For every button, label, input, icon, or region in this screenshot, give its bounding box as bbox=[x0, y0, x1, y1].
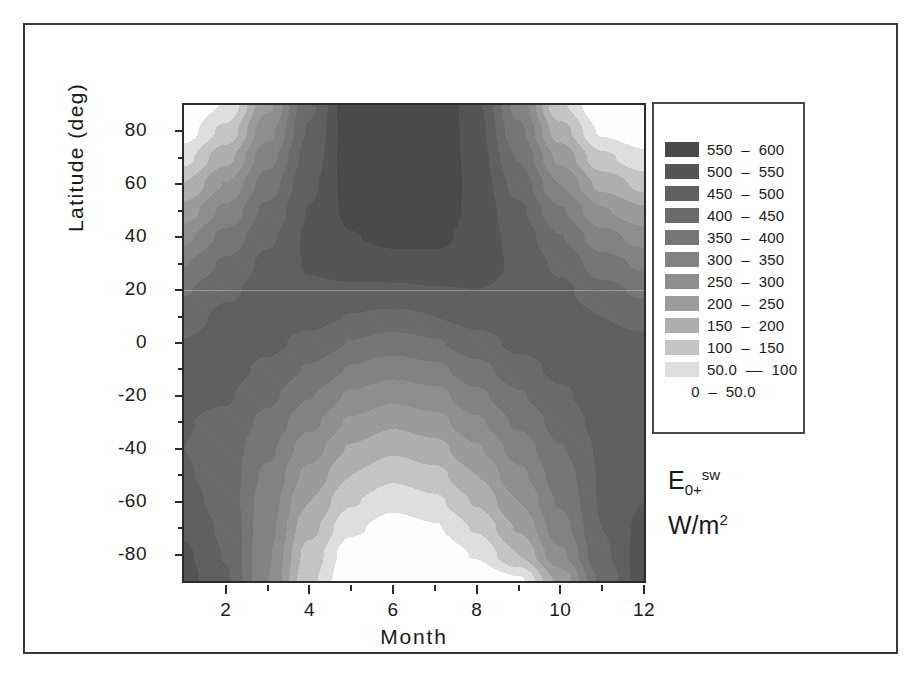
legend-entry: 100 – 150 bbox=[665, 336, 798, 358]
legend-entry: 200 – 250 bbox=[665, 292, 798, 314]
y-axis-tick-minor bbox=[178, 263, 184, 265]
legend-entry: 300 – 350 bbox=[665, 248, 798, 270]
quantity-symbol-superscript: sw bbox=[702, 466, 720, 483]
legend-entry-label: 550 – 600 bbox=[707, 141, 784, 158]
x-axis-tick-major bbox=[225, 585, 227, 594]
x-axis-tick-minor bbox=[350, 585, 352, 591]
y-axis-tick-label: -40 bbox=[118, 437, 147, 459]
legend-color-swatch bbox=[665, 296, 699, 311]
legend-entry: 450 – 500 bbox=[665, 182, 798, 204]
x-axis-tick-major bbox=[392, 585, 394, 594]
legend-entry: 500 – 550 bbox=[665, 160, 798, 182]
quantity-symbol-subscript: 0+ bbox=[685, 481, 702, 498]
y-axis-tick-label: 40 bbox=[125, 225, 147, 247]
legend-color-swatch bbox=[665, 362, 699, 377]
y-axis-tick-label: -60 bbox=[118, 490, 147, 512]
x-axis-tick-major bbox=[308, 585, 310, 594]
legend-color-swatch bbox=[665, 274, 699, 289]
y-axis-tick-label: 80 bbox=[125, 119, 147, 141]
y-axis-tick-minor bbox=[178, 157, 184, 159]
x-axis-title: Month bbox=[182, 625, 646, 649]
x-axis-tick-label: 12 bbox=[614, 599, 674, 621]
legend-entry-label: 350 – 400 bbox=[707, 229, 784, 246]
x-axis-tick-major bbox=[643, 585, 645, 594]
y-axis-tick-minor bbox=[178, 368, 184, 370]
legend-color-swatch bbox=[665, 142, 699, 157]
y-axis-tick-minor bbox=[178, 316, 184, 318]
y-axis-tick-label: -20 bbox=[118, 384, 147, 406]
y-axis-tick-major bbox=[175, 130, 184, 132]
x-axis-tick-minor bbox=[518, 585, 520, 591]
legend-entry-list: 550 – 600500 – 550450 – 500400 – 450350 … bbox=[665, 138, 798, 402]
x-axis-tick-minor bbox=[434, 585, 436, 591]
y-axis-tick-minor bbox=[178, 210, 184, 212]
legend-entry: 250 – 300 bbox=[665, 270, 798, 292]
quantity-annotation: E0+sw W/m2 bbox=[668, 462, 728, 543]
legend-entry-label: 200 – 250 bbox=[707, 295, 784, 312]
y-axis-tick-major bbox=[175, 236, 184, 238]
y-axis-title: Latitude (deg) bbox=[64, 83, 88, 232]
legend-entry-label: 50.0 –– 100 bbox=[707, 361, 797, 378]
y-axis-tick-minor bbox=[178, 421, 184, 423]
legend-entry: 550 – 600 bbox=[665, 138, 798, 160]
y-axis-tick-label: 0 bbox=[136, 331, 147, 353]
y-axis-tick-label: 60 bbox=[125, 172, 147, 194]
legend-color-swatch bbox=[665, 164, 699, 179]
legend-entry-label: 100 – 150 bbox=[707, 339, 784, 356]
x-axis-tick-label: 10 bbox=[530, 599, 590, 621]
plot-area: 806040200-20-40-60-8024681012 bbox=[182, 103, 646, 583]
legend-color-swatch bbox=[665, 230, 699, 245]
legend-entry: 350 – 400 bbox=[665, 226, 798, 248]
x-axis-tick-label: 6 bbox=[363, 599, 423, 621]
legend-entry-label: 150 – 200 bbox=[707, 317, 784, 334]
legend-entry: 50.0 –– 100 bbox=[665, 358, 798, 380]
legend-entry-label: 500 – 550 bbox=[707, 163, 784, 180]
legend-entry-label: 450 – 500 bbox=[707, 185, 784, 202]
y-axis-tick-major bbox=[175, 501, 184, 503]
legend-entry: 400 – 450 bbox=[665, 204, 798, 226]
legend-color-swatch bbox=[665, 186, 699, 201]
legend-color-swatch bbox=[665, 318, 699, 333]
x-axis-tick-label: 2 bbox=[196, 599, 256, 621]
quantity-symbol-base: E bbox=[668, 466, 685, 494]
legend-entry: 150 – 200 bbox=[665, 314, 798, 336]
x-axis-tick-label: 8 bbox=[447, 599, 507, 621]
quantity-symbol: E0+sw bbox=[668, 462, 728, 501]
y-axis-tick-label: -80 bbox=[118, 543, 147, 565]
legend-entry-label: 300 – 350 bbox=[707, 251, 784, 268]
x-axis-tick-major bbox=[476, 585, 478, 594]
y-axis-tick-major bbox=[175, 448, 184, 450]
y-axis-tick-major bbox=[175, 183, 184, 185]
y-axis-tick-label: 20 bbox=[125, 278, 147, 300]
x-axis-tick-major bbox=[559, 585, 561, 594]
legend-color-swatch bbox=[665, 340, 699, 355]
figure-root: Latitude (deg) 806040200-20-40-60-802468… bbox=[0, 0, 922, 676]
contour-plot-canvas bbox=[184, 105, 644, 581]
legend-entry-label: 400 – 450 bbox=[707, 207, 784, 224]
quantity-units-base: W/m bbox=[668, 511, 719, 539]
legend-entry-label: 0 – 50.0 bbox=[665, 383, 798, 400]
y-axis-tick-minor bbox=[178, 474, 184, 476]
y-axis-tick-major bbox=[175, 289, 184, 291]
legend-box: 550 – 600500 – 550450 – 500400 – 450350 … bbox=[652, 102, 805, 434]
y-axis-tick-major bbox=[175, 342, 184, 344]
legend-entry: 0 – 50.0 bbox=[665, 380, 798, 402]
legend-color-swatch bbox=[665, 252, 699, 267]
legend-color-swatch bbox=[665, 208, 699, 223]
x-axis-tick-label: 4 bbox=[279, 599, 339, 621]
quantity-units: W/m2 bbox=[668, 507, 728, 543]
x-axis-tick-minor bbox=[601, 585, 603, 591]
legend-entry-label: 250 – 300 bbox=[707, 273, 784, 290]
y-axis-tick-major bbox=[175, 395, 184, 397]
y-axis-tick-minor bbox=[178, 527, 184, 529]
x-axis-tick-minor bbox=[267, 585, 269, 591]
quantity-units-exponent: 2 bbox=[719, 510, 727, 527]
y-axis-tick-major bbox=[175, 554, 184, 556]
